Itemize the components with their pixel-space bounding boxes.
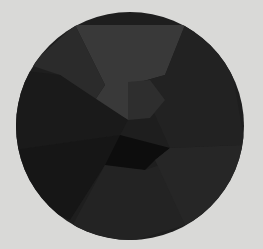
faceted-disc: [0, 0, 263, 249]
photo-stage: [0, 0, 263, 249]
